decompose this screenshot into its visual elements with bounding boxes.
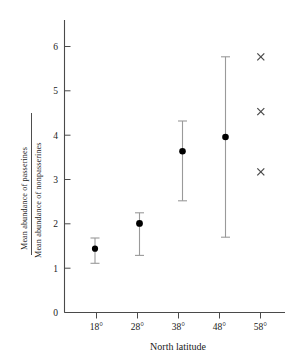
- y-axis-label-denominator: Mean abundance of nonpasserines: [34, 142, 43, 258]
- y-tick-label-2: 2: [53, 219, 58, 229]
- x-tick-label-28: 28°: [131, 322, 145, 332]
- chart-background: [0, 0, 296, 358]
- x-tick-label-48: 48°: [213, 322, 227, 332]
- x-axis-title: North latitude: [150, 341, 206, 352]
- scatter-plot-with-error-bars: Mean abundance of passerines Mean abunda…: [0, 0, 296, 358]
- y-tick-label-6: 6: [53, 42, 58, 52]
- marker-point-48: [222, 134, 229, 141]
- y-tick-label-3: 3: [53, 175, 58, 185]
- x-tick-label-18: 18°: [90, 322, 104, 332]
- marker-point-38: [179, 148, 186, 155]
- chart-figure: Mean abundance of passerines Mean abunda…: [0, 0, 296, 358]
- x-tick-label-58: 58°: [254, 322, 268, 332]
- marker-point-28: [136, 220, 143, 227]
- y-tick-label-5: 5: [53, 86, 58, 96]
- y-tick-label-4: 4: [53, 131, 58, 141]
- y-tick-label-1: 1: [53, 264, 58, 274]
- y-axis-label-numerator: Mean abundance of passerines: [20, 147, 29, 250]
- marker-point-18: [92, 246, 98, 252]
- y-tick-label-0: 0: [53, 308, 58, 318]
- x-tick-label-38: 38°: [172, 322, 186, 332]
